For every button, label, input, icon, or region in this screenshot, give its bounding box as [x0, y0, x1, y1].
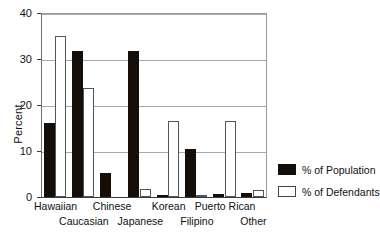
legend-item-defendants: % of Defendants [278, 185, 375, 198]
bar-series-group [42, 14, 266, 197]
bar-korean-population [157, 195, 168, 197]
y-tick-label-30: 30 [2, 54, 32, 65]
legend-swatch-population-icon [278, 164, 296, 175]
bar-other-defendants [253, 190, 264, 197]
legend-label-population: % of Population [302, 164, 376, 176]
bar-chinese-population [100, 173, 111, 197]
y-tick-label-40: 40 [2, 8, 32, 19]
bar-other-population [241, 193, 252, 197]
legend-item-population: % of Population [278, 163, 375, 176]
bar-filipino-population [185, 149, 196, 197]
bar-hawaiian-population [44, 123, 55, 197]
bar-filipino-defendants [196, 195, 207, 197]
bar-caucasian-defendants [83, 88, 94, 197]
bar-hawaiian-defendants [55, 36, 66, 197]
x-tick-label-puerto-rican: Puerto Rican [190, 200, 260, 212]
y-tick-label-10: 10 [2, 146, 32, 157]
legend-swatch-defendants-icon [278, 186, 296, 197]
bar-japanese-defendants [140, 189, 151, 197]
chart-title-clipped [0, 0, 375, 7]
bar-puerto-rican-population [213, 194, 224, 197]
bar-puerto-rican-defendants [225, 121, 236, 197]
x-tick-label-other: Other [218, 215, 288, 227]
bar-korean-defendants [168, 121, 179, 197]
bar-caucasian-population [72, 51, 83, 197]
legend-label-defendants: % of Defendants [302, 186, 380, 198]
y-tick-label-20: 20 [2, 100, 32, 111]
plot-area [41, 13, 267, 198]
chart-legend: % of Population % of Defendants [278, 163, 375, 207]
bar-japanese-population [128, 51, 139, 197]
